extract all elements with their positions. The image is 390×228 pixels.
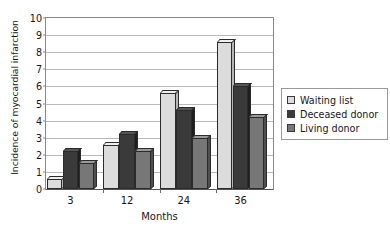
bar [192, 135, 211, 189]
x-axis-tick-label: 3 [67, 195, 73, 206]
y-axis-tick [43, 137, 46, 138]
bar-group [47, 18, 95, 189]
y-axis-tick-label: 2 [36, 149, 42, 160]
bar-front-face [103, 145, 119, 189]
y-axis-tick [43, 154, 46, 155]
y-axis-title: Incidence of myocardial infarction [9, 3, 20, 193]
x-axis-tick [160, 189, 161, 193]
legend-item: Deceased donor [287, 107, 384, 121]
x-axis-title: Months [45, 211, 274, 222]
y-axis-tick [43, 189, 46, 190]
legend-swatch-living-donor [287, 124, 295, 132]
legend-item: Waiting list [287, 93, 384, 107]
x-axis-tick-label: 24 [178, 195, 191, 206]
legend-label: Waiting list [300, 95, 353, 106]
bar-front-face [79, 163, 95, 189]
bar-group [217, 18, 265, 189]
y-axis-tick-label: 9 [36, 30, 42, 41]
bar-front-face [135, 151, 151, 189]
y-axis-tick-label: 3 [36, 132, 42, 143]
bar-front-face [63, 151, 79, 189]
bar-group [103, 18, 151, 189]
y-axis-tick [43, 35, 46, 36]
bar-front-face [47, 179, 63, 189]
bar [135, 148, 154, 189]
bar-front-face [233, 86, 249, 189]
bar [249, 114, 268, 189]
y-axis-tick [43, 86, 46, 87]
x-axis-tick [216, 189, 217, 193]
y-axis-tick [43, 69, 46, 70]
legend-label: Deceased donor [300, 109, 378, 120]
y-axis-tick-label: 7 [36, 64, 42, 75]
bar-side-face [151, 148, 154, 189]
bar-front-face [192, 138, 208, 189]
bar-front-face [176, 110, 192, 189]
bar-side-face [264, 114, 267, 189]
bar-side-face [208, 135, 211, 189]
x-axis-tick-label: 36 [234, 195, 247, 206]
legend-swatch-deceased-donor [287, 110, 295, 118]
legend-swatch-waiting-list [287, 96, 295, 104]
bar-chart-figure: Incidence of myocardial infarction 01234… [0, 0, 390, 228]
bar-group [160, 18, 208, 189]
y-axis-tick-label: 1 [36, 166, 42, 177]
bar-front-face [217, 42, 233, 189]
bar-side-face [94, 160, 97, 189]
y-axis-tick-label: 8 [36, 47, 42, 58]
legend-item: Living donor [287, 121, 384, 135]
legend: Waiting list Deceased donor Living donor [281, 88, 388, 140]
y-axis-tick-label: 6 [36, 81, 42, 92]
y-axis-tick-label: 0 [36, 184, 42, 195]
legend-label: Living donor [300, 123, 359, 134]
bar-front-face [249, 117, 265, 189]
x-axis-tick-label: 12 [121, 195, 134, 206]
y-axis-tick [43, 52, 46, 53]
y-axis-tick [43, 120, 46, 121]
y-axis-tick-label: 10 [30, 13, 42, 24]
plot-area: 0123456789103122436 [45, 17, 274, 190]
y-axis-tick [43, 18, 46, 19]
bar [79, 160, 98, 189]
bar-front-face [160, 93, 176, 189]
x-axis-tick [103, 189, 104, 193]
y-axis-tick-label: 4 [36, 115, 42, 126]
y-axis-tick-label: 5 [36, 98, 42, 109]
y-axis-tick [43, 103, 46, 104]
bar-front-face [119, 134, 135, 189]
y-axis-tick [43, 171, 46, 172]
